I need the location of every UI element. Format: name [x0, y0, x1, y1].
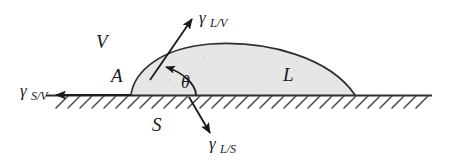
gamma-ls-symbol: γ	[209, 134, 217, 153]
gamma-sv-subscript: S/V	[31, 89, 49, 103]
gamma-lv-symbol: γ	[199, 8, 207, 27]
gamma-ls-vector	[189, 97, 210, 133]
gamma-lv-subscript: L/V	[209, 16, 229, 30]
contact-angle-diagram: V A L S θ γ S/V γ L/V γ L/S	[0, 0, 454, 162]
label-gamma-ls: γ L/S	[209, 134, 236, 156]
solid-substrate	[46, 96, 432, 109]
label-gamma-sv: γ S/V	[20, 81, 49, 103]
label-liquid: L	[282, 64, 294, 85]
contact-angle-figure: V A L S θ γ S/V γ L/V γ L/S	[0, 0, 454, 162]
label-solid: S	[152, 114, 162, 135]
gamma-sv-symbol: γ	[20, 81, 28, 100]
label-contact-point: A	[109, 65, 123, 86]
drop-fill	[131, 43, 355, 95]
label-vapor: V	[96, 31, 110, 52]
label-gamma-lv: γ L/V	[199, 8, 229, 30]
label-contact-angle: θ	[181, 72, 190, 92]
substrate-hatching	[56, 96, 428, 108]
liquid-drop	[131, 43, 355, 95]
gamma-ls-subscript: L/S	[219, 142, 236, 156]
gamma-ls-arrow	[189, 97, 210, 133]
